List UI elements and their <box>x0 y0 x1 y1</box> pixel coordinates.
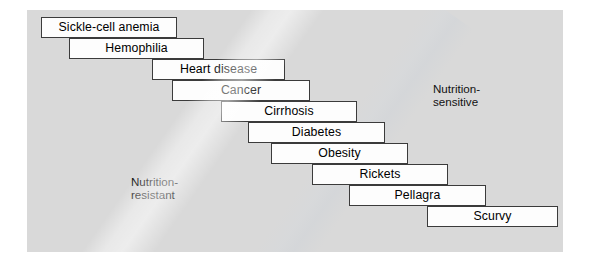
step-box: Cirrhosis <box>221 101 357 122</box>
annotation-nutrition-sensitive: Nutrition- sensitive <box>433 82 480 109</box>
step-box: Rickets <box>312 164 448 185</box>
annotation-nutrition-resistant: Nutrition- resistant <box>131 175 178 202</box>
step-box: Pellagra <box>349 185 486 206</box>
step-box: Cancer <box>172 80 310 101</box>
step-box: Scurvy <box>427 206 558 227</box>
step-box: Sickle-cell anemia <box>41 17 177 38</box>
step-box: Hemophilia <box>69 38 204 59</box>
step-box: Obesity <box>271 143 408 164</box>
step-box: Diabetes <box>248 122 385 143</box>
figure-canvas: Sickle-cell anemiaHemophiliaHeart diseas… <box>0 0 594 269</box>
step-box: Heart disease <box>152 59 285 80</box>
diagram-panel: Sickle-cell anemiaHemophiliaHeart diseas… <box>27 10 563 252</box>
